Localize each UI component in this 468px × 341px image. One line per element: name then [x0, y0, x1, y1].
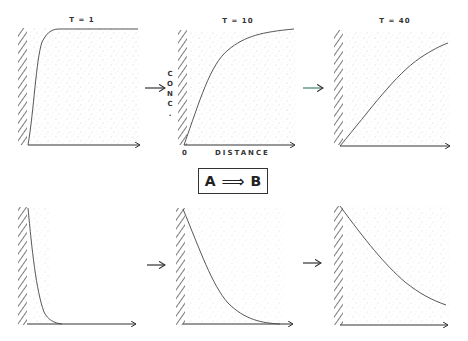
panel-top-2	[178, 29, 297, 145]
diffusion-diagram: T = 1 T = 10 T = 40 C O N C . 0 DISTANCE…	[0, 0, 468, 341]
panel-bottom-3	[334, 206, 450, 325]
wall-hatch	[334, 206, 343, 325]
panel-bottom-2	[176, 208, 293, 325]
panel-title-t40: T = 40	[365, 17, 425, 25]
double-arrow-icon: ⟹	[222, 172, 245, 191]
wall-hatch	[18, 28, 27, 145]
panel-top-1	[18, 28, 140, 145]
x-axis-label: DISTANCE	[215, 149, 270, 157]
panel-bottom-1	[18, 207, 136, 325]
stipple-fill	[345, 30, 451, 145]
y-axis-label: C O N C .	[166, 69, 174, 119]
wall-hatch	[178, 30, 187, 145]
panel-title-t10: T = 10	[208, 17, 268, 25]
panel-title-t1: T = 1	[52, 16, 112, 24]
wall-hatch	[18, 207, 27, 325]
stipple-fill	[29, 28, 139, 145]
product-label: B	[251, 173, 262, 189]
wall-hatch	[176, 208, 185, 325]
stipple-fill	[345, 206, 450, 325]
stipple-fill	[186, 208, 286, 325]
panel-top-3	[334, 30, 451, 146]
reactant-label: A	[205, 173, 216, 189]
wall-hatch	[334, 30, 343, 145]
reaction-box: A ⟹ B	[198, 168, 268, 194]
origin-label: 0	[182, 149, 189, 157]
stipple-fill	[29, 207, 49, 325]
